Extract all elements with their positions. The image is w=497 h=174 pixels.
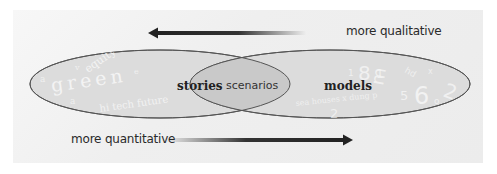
- scenarios-label: scenarios: [226, 79, 279, 92]
- svg-text:a: a: [70, 96, 76, 106]
- bottom-arrow: [165, 135, 353, 146]
- svg-text:1: 1: [348, 68, 354, 78]
- arrowhead-left-icon: [148, 28, 158, 39]
- top-arrow: [148, 28, 306, 39]
- stories-label: stories: [177, 79, 223, 93]
- svg-text:e: e: [134, 67, 139, 76]
- svg-text:5: 5: [400, 88, 408, 103]
- svg-text:6: 6: [414, 82, 429, 110]
- models-label: models: [324, 79, 372, 93]
- svg-text:2: 2: [330, 106, 338, 121]
- more-quantitative-label: more quantitative: [71, 132, 175, 146]
- svg-text:o: o: [434, 96, 440, 106]
- more-qualitative-label: more qualitative: [346, 24, 442, 38]
- svg-text:x: x: [428, 67, 433, 76]
- arrowhead-right-icon: [343, 135, 353, 146]
- svg-text:v: v: [74, 63, 80, 72]
- svg-text:a: a: [40, 74, 46, 84]
